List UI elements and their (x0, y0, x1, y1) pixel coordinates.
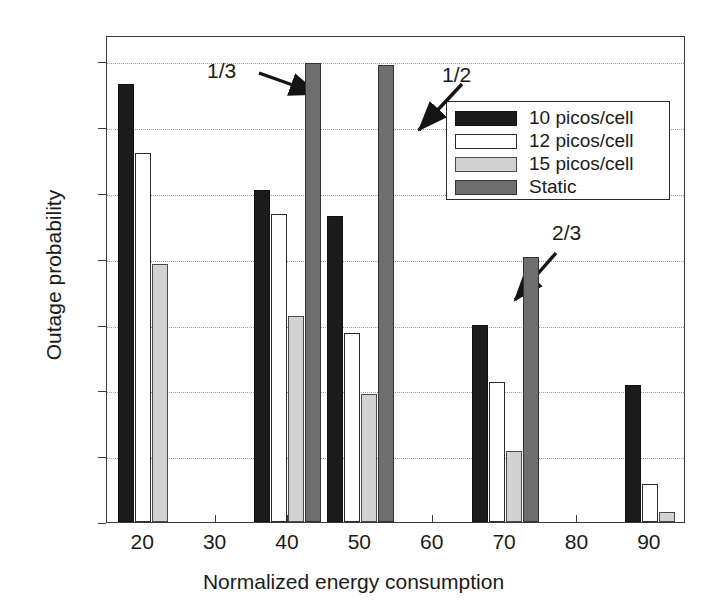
gridline (107, 63, 684, 64)
bar (361, 394, 377, 522)
legend-label: 10 picos/cell (529, 108, 634, 128)
gridline (107, 458, 684, 459)
legend-swatch (455, 180, 517, 195)
x-axis-tick-label: 40 (257, 530, 317, 554)
gridline (107, 392, 684, 393)
bar (327, 216, 343, 522)
bar (305, 63, 321, 522)
legend-swatch (455, 134, 517, 149)
legend-swatch (455, 111, 517, 126)
y-axis-tick-mark (98, 194, 106, 195)
x-axis-title: Normalized energy consumption (0, 570, 707, 594)
legend-label: Static (529, 177, 577, 197)
legend-item: 12 picos/cell (455, 130, 669, 152)
y-axis-tick-mark (98, 326, 106, 327)
chart-figure: 00.020.040.060.080.10.120.14 Outage prob… (0, 0, 707, 615)
annotation-label-two-thirds: 2/3 (552, 222, 581, 244)
y-axis-tick-mark (98, 391, 106, 392)
annotation-label-one-half: 1/2 (442, 64, 471, 86)
bar (344, 333, 360, 522)
y-axis-tick-mark (98, 62, 106, 63)
legend-item: Static (455, 176, 669, 198)
x-axis-tick-label: 80 (546, 530, 606, 554)
x-axis-tick-mark (432, 515, 433, 523)
y-axis-tick-mark (98, 128, 106, 129)
x-axis-tick-mark (576, 515, 577, 523)
y-axis-tick-mark (98, 260, 106, 261)
x-axis-tick-mark (215, 515, 216, 523)
x-axis-tick-label: 50 (329, 530, 389, 554)
bar (254, 190, 270, 522)
legend-label: 12 picos/cell (529, 131, 634, 151)
legend-label: 15 picos/cell (529, 154, 634, 174)
bar (118, 84, 134, 522)
annotation-label-one-third: 1/3 (207, 60, 236, 82)
bar (523, 257, 539, 522)
x-axis-tick-label: 20 (112, 530, 172, 554)
gridline (107, 327, 684, 328)
x-axis-tick-label: 30 (185, 530, 245, 554)
bar (659, 512, 675, 522)
legend-item: 15 picos/cell (455, 153, 669, 175)
y-axis-title: Outage probability (42, 35, 66, 515)
bar (378, 65, 394, 522)
bar (489, 382, 505, 522)
x-axis-tick-label: 60 (402, 530, 462, 554)
legend-swatch (455, 157, 517, 172)
y-axis-tick-mark (98, 457, 106, 458)
bar (135, 153, 151, 522)
y-axis-tick-mark (98, 523, 106, 524)
bar (642, 484, 658, 522)
gridline (107, 261, 684, 262)
bar (506, 451, 522, 522)
bar (472, 325, 488, 522)
legend: 10 picos/cell12 picos/cell15 picos/cellS… (446, 101, 670, 200)
bar (152, 264, 168, 522)
bar (288, 316, 304, 522)
x-axis-tick-label: 70 (474, 530, 534, 554)
bar (625, 385, 641, 522)
x-axis-tick-label: 90 (619, 530, 679, 554)
legend-item: 10 picos/cell (455, 107, 669, 129)
bar (271, 214, 287, 522)
